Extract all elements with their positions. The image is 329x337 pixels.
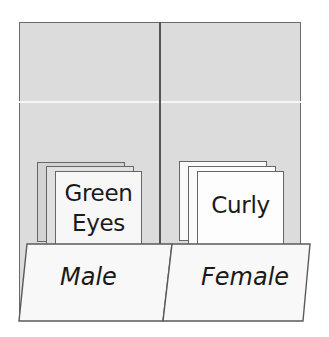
female-tab-label: Female <box>201 263 289 291</box>
male-tab-label: Male <box>60 263 117 291</box>
